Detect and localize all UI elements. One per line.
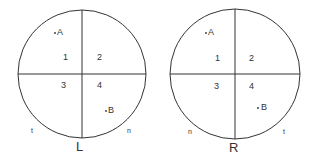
right-diagram: A 1 2 3 4 B n t R [170,9,300,155]
left-quadrant-3: 3 [61,80,66,90]
left-point-a-dot [54,32,56,34]
left-point-a-label: A [57,27,63,37]
left-side-label-right: n [127,127,131,134]
right-quadrant-3: 3 [214,81,219,91]
right-diagram-title: R [229,140,238,155]
right-side-label-left: n [188,128,192,135]
left-quadrant-4: 4 [97,80,102,90]
dual-quadrant-diagram: A 1 2 3 4 B t n L A 1 2 3 4 B n t R [0,0,312,161]
right-quadrant-1: 1 [215,53,220,63]
left-quadrant-2: 2 [97,52,102,62]
right-quadrant-2: 2 [249,53,254,63]
right-point-a-dot [205,32,207,34]
left-point-b-label: B [108,105,114,115]
left-side-label-left: t [31,127,33,134]
left-quadrant-1: 1 [63,52,68,62]
right-point-b-dot [257,107,259,109]
left-diagram: A 1 2 3 4 B t n L [18,10,146,154]
left-point-b-dot [105,110,107,112]
right-point-b-label: B [261,102,267,112]
right-side-label-right: t [283,128,285,135]
left-diagram-title: L [76,139,83,154]
right-point-a-label: A [208,27,214,37]
right-quadrant-4: 4 [249,81,254,91]
